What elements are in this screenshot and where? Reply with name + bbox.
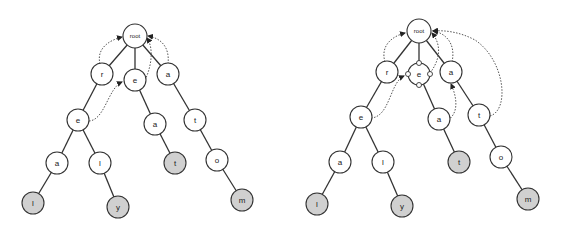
svg-text:a: a (437, 115, 442, 124)
svg-text:y: y (400, 202, 404, 211)
svg-text:l: l (382, 158, 384, 167)
node-rel: l (89, 152, 111, 174)
node-atom-terminal: m (517, 188, 539, 210)
svg-text:a: a (55, 159, 60, 168)
node-r: r (376, 61, 398, 83)
node-rely-terminal: y (391, 195, 413, 217)
right-nodes: root r e a e a t a l t o l y m (306, 19, 539, 217)
left-nodes: root r e a e a t a l t o l y m (22, 24, 253, 218)
svg-text:l: l (32, 199, 34, 208)
svg-text:l: l (99, 159, 101, 168)
node-root: root (123, 24, 147, 48)
node-real-terminal: l (306, 193, 328, 215)
port-bottom (417, 83, 422, 88)
node-rea: a (329, 151, 351, 173)
trie-diagram: root r e a e a t a l t o l y m (0, 0, 562, 234)
svg-text:r: r (101, 70, 104, 79)
node-re: e (350, 106, 372, 128)
svg-text:e: e (417, 70, 422, 79)
node-rely-terminal: y (107, 196, 129, 218)
svg-text:m: m (525, 195, 532, 204)
node-eat-terminal: t (164, 152, 186, 174)
svg-text:l: l (316, 200, 318, 209)
node-rea: a (46, 152, 68, 174)
port-right (428, 72, 433, 77)
node-ato: o (490, 146, 512, 168)
node-a: a (440, 61, 462, 83)
node-at: t (468, 104, 490, 126)
svg-text:y: y (116, 203, 120, 212)
svg-text:a: a (166, 70, 171, 79)
svg-text:a: a (153, 120, 158, 129)
port-top (417, 61, 422, 66)
svg-text:o: o (215, 156, 220, 165)
node-rel: l (372, 151, 394, 173)
svg-text:root: root (130, 33, 141, 39)
node-at: t (184, 109, 206, 131)
svg-text:a: a (449, 68, 454, 77)
svg-text:o: o (499, 153, 504, 162)
node-re: e (67, 109, 89, 131)
node-e: e (124, 69, 146, 91)
port-left (406, 72, 411, 77)
right-edges (317, 31, 528, 206)
node-e-with-ports: e (406, 61, 433, 88)
svg-text:e: e (133, 76, 138, 85)
node-r: r (91, 63, 113, 85)
svg-text:m: m (239, 196, 246, 205)
right-trie: root r e a e a t a l t o l y m (306, 19, 539, 217)
node-real-terminal: l (22, 192, 44, 214)
svg-text:a: a (338, 158, 343, 167)
node-eat-terminal: t (448, 151, 470, 173)
node-root: root (407, 19, 431, 43)
node-ea: a (144, 113, 166, 135)
left-edges (33, 36, 242, 207)
svg-text:e: e (76, 116, 81, 125)
svg-text:e: e (359, 113, 364, 122)
node-atom-terminal: m (231, 189, 253, 211)
svg-text:r: r (386, 68, 389, 77)
node-a: a (157, 63, 179, 85)
left-trie: root r e a e a t a l t o l y m (22, 24, 253, 218)
svg-text:root: root (414, 28, 425, 34)
node-ea: a (428, 108, 450, 130)
node-ato: o (206, 149, 228, 171)
